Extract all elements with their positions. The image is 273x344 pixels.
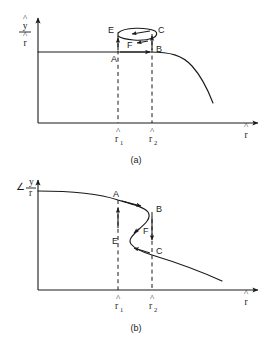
panel-b: ∠ y r ^ r A B F E bbox=[16, 177, 258, 333]
panel-a-arrow-interior bbox=[137, 41, 148, 43]
panel-b-y-label-angle-symbol: ∠ bbox=[16, 182, 25, 192]
panel-b-point-label-e: E bbox=[112, 236, 118, 246]
panel-b-arrow-a-to-b bbox=[122, 201, 141, 206]
panel-b-y-label-numerator: y bbox=[29, 177, 34, 187]
panel-b-x-axis-label: ^ r bbox=[244, 288, 249, 307]
panel-b-tick-r1-subscript: 1 bbox=[120, 306, 123, 313]
panel-a-tick-r2-subscript: 2 bbox=[154, 139, 157, 146]
panel-b-arrow-c-to-e bbox=[134, 248, 150, 253]
panel-b-tick-r2: ^ r 2 bbox=[149, 293, 157, 313]
figure-container: ^ y ^ r ^ r E bbox=[0, 0, 273, 344]
panel-a-hysteresis-loop bbox=[118, 28, 157, 40]
panel-a-tick-r1-subscript: 1 bbox=[120, 139, 123, 146]
panel-b-arrow-interior bbox=[134, 229, 139, 233]
panel-a: ^ y ^ r ^ r E bbox=[19, 13, 258, 165]
panel-a-response-curve bbox=[38, 52, 213, 103]
panel-b-point-label-f: F bbox=[143, 226, 149, 236]
panel-a-y-axis-label: ^ y ^ r bbox=[19, 13, 31, 48]
panel-a-x-label: r bbox=[244, 130, 248, 140]
panel-b-tick-r1: ^ r 1 bbox=[115, 293, 123, 313]
panel-b-x-label: r bbox=[244, 297, 248, 307]
panel-a-tick-r2: ^ r 2 bbox=[149, 126, 157, 146]
two-panel-bifurcation-diagram: ^ y ^ r ^ r E bbox=[0, 0, 273, 344]
panel-a-point-label-b: B bbox=[156, 44, 162, 54]
panel-b-point-label-c: C bbox=[156, 246, 163, 256]
panel-b-caption: (b) bbox=[131, 323, 142, 333]
panel-b-point-label-a: A bbox=[113, 189, 119, 199]
panel-a-x-axis-label: ^ r bbox=[244, 121, 249, 140]
panel-a-point-label-f: F bbox=[127, 40, 133, 50]
panel-a-point-label-a: A bbox=[111, 54, 117, 64]
panel-a-arrow-c-to-e bbox=[132, 31, 150, 34]
panel-a-point-label-e: E bbox=[108, 25, 114, 35]
panel-b-s-curve bbox=[38, 191, 222, 281]
panel-b-tick-r2-subscript: 2 bbox=[154, 306, 157, 313]
panel-a-tick-r1: ^ r 1 bbox=[115, 126, 123, 146]
panel-b-y-label-denominator: r bbox=[29, 188, 33, 198]
panel-a-point-label-c: C bbox=[158, 25, 165, 35]
panel-a-caption: (a) bbox=[131, 155, 142, 165]
panel-b-point-label-b: B bbox=[156, 204, 162, 214]
panel-b-y-axis-label: ∠ y r bbox=[16, 177, 36, 198]
